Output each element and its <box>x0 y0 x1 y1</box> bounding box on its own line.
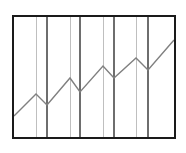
line-chart <box>0 0 186 153</box>
chart-container <box>0 0 186 153</box>
